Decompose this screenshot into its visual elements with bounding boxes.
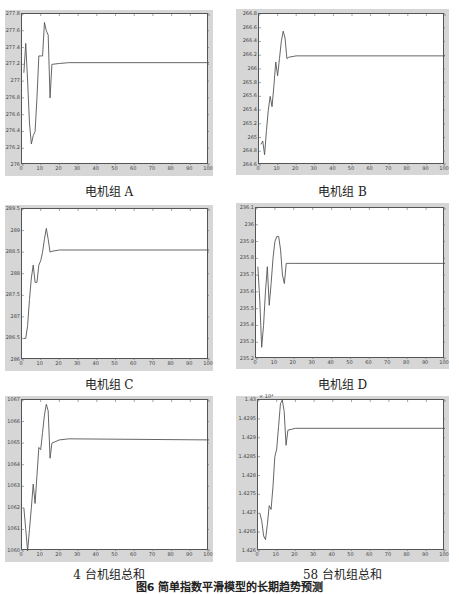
- x-tick-label: 20: [286, 359, 300, 365]
- x-tick-label: 30: [307, 165, 321, 171]
- x-tick-label: 100: [437, 551, 451, 557]
- x-tick-label: 60: [126, 360, 140, 366]
- x-tick-label: 100: [201, 551, 215, 557]
- y-tick-label: 265.4: [239, 106, 257, 112]
- y-tick-label: 277.2: [2, 60, 20, 66]
- y-tick-label: 265.6: [239, 92, 257, 98]
- x-tick-label: 50: [343, 359, 357, 365]
- y-tick-label: 276.4: [2, 127, 20, 133]
- plot-area: [257, 399, 444, 550]
- x-tick-label: 100: [437, 165, 451, 171]
- x-tick-label: 40: [324, 359, 338, 365]
- x-tick-label: 70: [145, 165, 159, 171]
- x-tick-label: 30: [305, 359, 319, 365]
- data-series-line: [258, 237, 445, 348]
- x-tick-label: 70: [145, 551, 159, 557]
- data-series-line: [24, 404, 209, 551]
- y-tick-label: 235.9: [236, 238, 254, 244]
- chart-caption: 电机组 B: [236, 182, 449, 199]
- y-tick-label: 286.5: [2, 334, 20, 340]
- y-tick-label: 1064: [2, 461, 20, 467]
- x-tick-label: 80: [164, 551, 178, 557]
- line-plot: [22, 209, 209, 360]
- x-tick-label: 0: [248, 359, 262, 365]
- x-tick-label: 90: [182, 360, 196, 366]
- y-tick-label: 265.8: [239, 79, 257, 85]
- y-tick-label: 289.5: [2, 205, 20, 211]
- y-tick-label: 236: [236, 221, 254, 227]
- y-tick-label: 236.1: [236, 204, 254, 210]
- y-tick-label: 1065: [2, 439, 20, 445]
- y-tick-label: 277.6: [2, 27, 20, 33]
- y-tick-label: 1.4295: [238, 415, 256, 421]
- x-tick-label: 0: [251, 165, 265, 171]
- x-tick-label: 0: [14, 551, 28, 557]
- y-tick-label: 287.5: [2, 291, 20, 297]
- line-plot: [22, 400, 209, 551]
- x-tick-label: 10: [270, 165, 284, 171]
- x-tick-label: 70: [381, 165, 395, 171]
- y-tick-label: 235.4: [236, 321, 254, 327]
- x-tick-label: 70: [381, 551, 395, 557]
- y-tick-label: 1066: [2, 418, 20, 424]
- x-tick-label: 100: [437, 359, 451, 365]
- line-plot: [22, 14, 209, 165]
- x-tick-label: 90: [418, 165, 432, 171]
- plot-area: [21, 208, 208, 359]
- y-tick-label: 1062: [2, 504, 20, 510]
- y-tick-label: 289: [2, 227, 20, 233]
- y-tick-label: 235.3: [236, 338, 254, 344]
- y-tick-label: 287: [2, 313, 20, 319]
- y-tick-label: 235.5: [236, 305, 254, 311]
- x-tick-label: 30: [70, 165, 84, 171]
- x-tick-label: 80: [400, 165, 414, 171]
- x-tick-label: 0: [14, 360, 28, 366]
- x-tick-label: 60: [126, 551, 140, 557]
- x-tick-label: 40: [89, 360, 103, 366]
- x-tick-label: 10: [33, 165, 47, 171]
- x-tick-label: 40: [89, 551, 103, 557]
- y-tick-label: 1.43: [238, 396, 256, 402]
- x-tick-label: 20: [287, 551, 301, 557]
- x-tick-label: 100: [201, 360, 215, 366]
- x-tick-label: 10: [269, 551, 283, 557]
- y-tick-label: 1.429: [238, 434, 256, 440]
- y-tick-label: 277: [2, 77, 20, 83]
- x-tick-label: 50: [108, 165, 122, 171]
- x-tick-label: 30: [70, 360, 84, 366]
- y-tick-label: 266.2: [239, 51, 257, 57]
- y-tick-label: 265: [239, 134, 257, 140]
- y-tick-label: 277.8: [2, 10, 20, 16]
- y-tick-label: 277.4: [2, 44, 20, 50]
- chart-caption: 电机组 D: [236, 375, 449, 392]
- x-tick-label: 50: [108, 551, 122, 557]
- line-plot: [256, 208, 445, 359]
- y-tick-label: 235.7: [236, 271, 254, 277]
- x-tick-label: 60: [362, 551, 376, 557]
- y-tick-label: 1067: [2, 396, 20, 402]
- y-tick-label: 288: [2, 270, 20, 276]
- x-tick-label: 10: [33, 551, 47, 557]
- y-tick-label: 276.2: [2, 144, 20, 150]
- y-tick-label: 276.8: [2, 94, 20, 100]
- y-tick-label: 288.5: [2, 248, 20, 254]
- x-tick-label: 40: [89, 165, 103, 171]
- chart-caption: 电机组 A: [5, 182, 213, 199]
- x-tick-label: 60: [363, 165, 377, 171]
- x-tick-label: 80: [164, 165, 178, 171]
- x-tick-label: 70: [145, 360, 159, 366]
- y-axis-multiplier: × 10⁴: [259, 393, 273, 399]
- data-series-line: [24, 22, 209, 144]
- x-tick-label: 0: [14, 165, 28, 171]
- y-tick-label: 276.6: [2, 111, 20, 117]
- figure-caption: 图6 简单指数平滑模型的长期趋势预测: [0, 578, 459, 594]
- y-tick-label: 264.8: [239, 147, 257, 153]
- y-tick-label: 1061: [2, 525, 20, 531]
- x-tick-label: 0: [250, 551, 264, 557]
- y-tick-label: 1.4275: [238, 490, 256, 496]
- x-tick-label: 20: [51, 360, 65, 366]
- x-tick-label: 40: [325, 551, 339, 557]
- x-tick-label: 30: [306, 551, 320, 557]
- x-tick-label: 70: [380, 359, 394, 365]
- x-tick-label: 80: [399, 359, 413, 365]
